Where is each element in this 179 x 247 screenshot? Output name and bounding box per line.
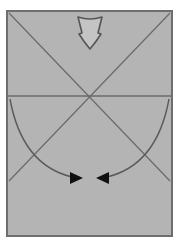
origami-diagram	[0, 0, 179, 247]
